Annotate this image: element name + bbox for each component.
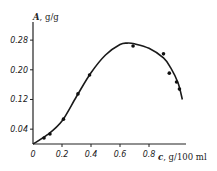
- x-tick-label: 0.8: [143, 150, 156, 159]
- data-points: [42, 44, 181, 140]
- tick-labels: 0.040.120.200.2800.20.40.60.8: [10, 36, 155, 159]
- data-point: [48, 132, 52, 136]
- data-point: [175, 80, 179, 84]
- adsorption-chart: 0.040.120.200.2800.20.40.60.8 A, g/g c, …: [0, 0, 217, 171]
- data-point: [162, 52, 166, 56]
- data-point: [168, 71, 172, 75]
- data-point: [76, 92, 80, 96]
- y-tick-label: 0.12: [10, 95, 28, 104]
- y-tick-label: 0.28: [10, 36, 28, 45]
- x-tick-label: 0.2: [56, 150, 69, 159]
- data-point: [42, 136, 46, 140]
- y-axis-label: A, g/g: [32, 12, 59, 22]
- x-axis-label: c, g/100 ml: [158, 152, 207, 162]
- y-tick-label: 0.04: [10, 125, 28, 134]
- data-point: [131, 44, 135, 48]
- x-tick-label: 0: [30, 150, 35, 159]
- x-tick-label: 0.6: [114, 150, 127, 159]
- y-tick-label: 0.20: [10, 66, 28, 75]
- fitted-curve: [33, 43, 182, 144]
- data-point: [62, 117, 66, 121]
- axes: [30, 22, 186, 147]
- data-point: [178, 87, 182, 91]
- curve-path: [33, 43, 182, 144]
- x-tick-label: 0.4: [85, 150, 98, 159]
- data-point: [88, 73, 92, 77]
